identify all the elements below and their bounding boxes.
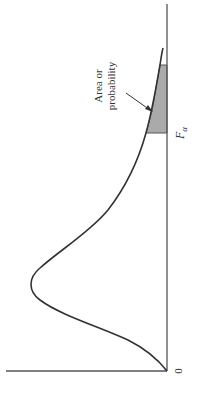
f-distribution-diagram: Area or probability Fα 0: [0, 0, 201, 401]
origin-label: 0: [172, 368, 184, 374]
critical-value-label: Fα: [173, 127, 189, 140]
annotation-line1: Area or: [92, 69, 104, 103]
annotation-line2: probability: [105, 61, 117, 110]
